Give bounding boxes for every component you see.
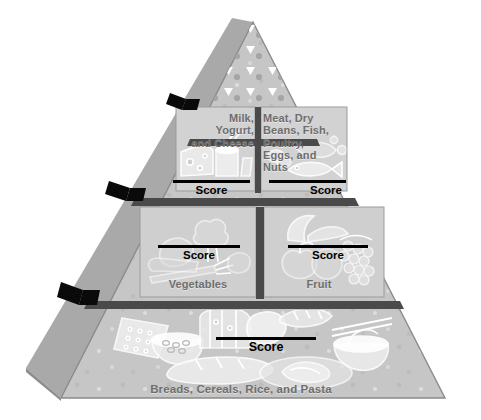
pyramid-graphic: [0, 0, 481, 420]
score-field-meat[interactable]: Score: [269, 180, 346, 196]
panel-meat-beans-fish-poultry-eggs-nuts[interactable]: [261, 107, 347, 191]
panel-milk-yogurt-cheese[interactable]: [176, 107, 255, 191]
score-rule-fruit: [288, 245, 368, 248]
score-label-milk: Score: [173, 184, 250, 196]
food-pyramid-figure: Milk, Yogurt, and Cheese Meat, Dry Beans…: [0, 0, 481, 420]
score-rule-vegetables: [158, 245, 240, 248]
score-label-breads: Score: [216, 341, 316, 354]
score-rule-milk: [173, 180, 250, 183]
score-field-milk[interactable]: Score: [173, 180, 250, 196]
score-field-vegetables[interactable]: Score: [158, 245, 240, 261]
score-rule-meat: [269, 180, 346, 183]
score-field-breads[interactable]: Score: [216, 337, 316, 354]
score-field-fruit[interactable]: Score: [288, 245, 368, 261]
score-label-fruit: Score: [288, 249, 368, 261]
score-label-vegetables: Score: [158, 249, 240, 261]
score-label-meat: Score: [269, 184, 346, 196]
